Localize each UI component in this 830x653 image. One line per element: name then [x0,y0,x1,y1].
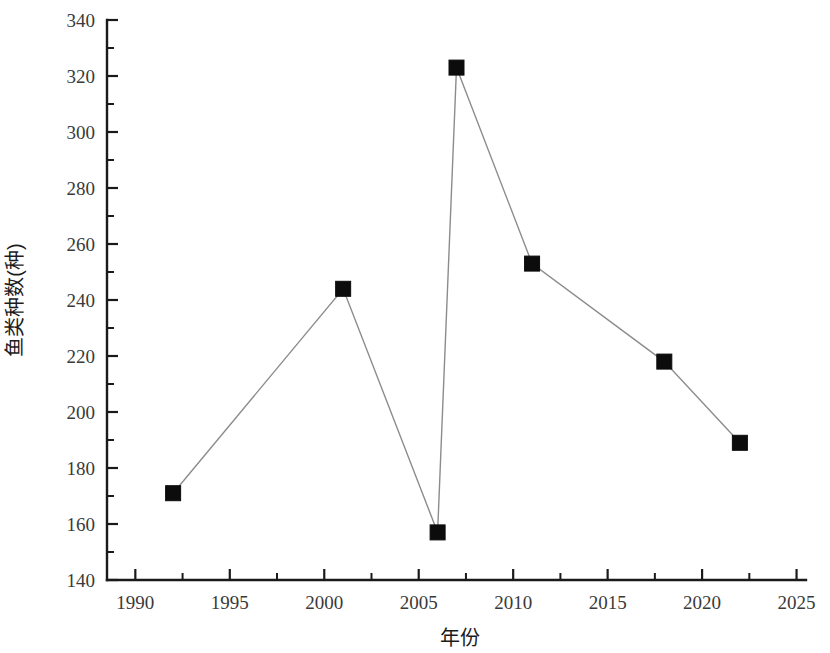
y-axis: 140160180200220240260280300320340 [67,10,119,591]
y-tick-label: 240 [67,290,96,311]
y-tick-label: 300 [67,122,96,143]
y-tick-label: 180 [67,458,96,479]
x-axis: 19901995200020052010201520202025 [107,569,816,613]
y-tick-label: 340 [67,10,96,31]
y-tick-label: 320 [67,66,96,87]
x-tick-label: 1990 [116,592,154,613]
series-polyline [173,68,740,533]
y-tick-label: 160 [67,514,96,535]
y-axis-title: 鱼类种数(种) [4,243,26,356]
y-tick-label: 260 [67,234,96,255]
y-tick-label: 200 [67,402,96,423]
x-tick-label: 1995 [211,592,249,613]
y-tick-label: 280 [67,178,96,199]
data-point-marker[interactable] [430,525,445,540]
data-series [166,60,748,540]
x-tick-label: 2000 [305,592,343,613]
x-tick-label: 2010 [494,592,532,613]
data-point-marker[interactable] [449,60,464,75]
chart-container: 140160180200220240260280300320340 199019… [0,0,830,653]
data-point-marker[interactable] [525,256,540,271]
x-tick-label: 2025 [778,592,816,613]
x-tick-label: 2005 [400,592,438,613]
x-tick-label: 2015 [589,592,627,613]
data-point-marker[interactable] [336,281,351,296]
data-point-marker[interactable] [657,354,672,369]
x-tick-label: 2020 [683,592,721,613]
y-tick-label: 140 [67,570,96,591]
fish-species-line-chart: 140160180200220240260280300320340 199019… [0,0,830,653]
y-tick-label: 220 [67,346,96,367]
data-point-marker[interactable] [732,435,747,450]
data-point-marker[interactable] [166,486,181,501]
x-axis-title: 年份 [440,627,480,649]
